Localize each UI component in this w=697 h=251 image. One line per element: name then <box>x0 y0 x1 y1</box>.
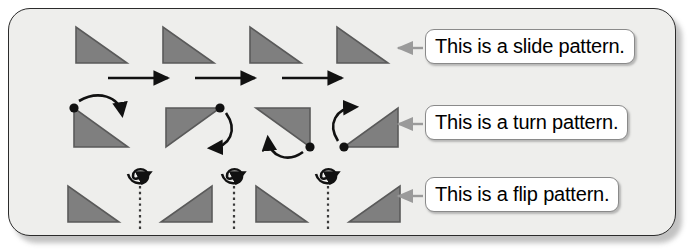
label-slide-pattern: This is a slide pattern. <box>425 29 635 64</box>
turn-triangle-3 <box>256 108 315 158</box>
flip-loop-arrow-1 <box>128 169 149 183</box>
slide-triangle-1 <box>76 27 127 63</box>
flip-triangle-1 <box>68 186 119 222</box>
diagram-stage: This is a slide pattern. This is a turn … <box>0 0 697 251</box>
flip-loop-arrow-3 <box>316 169 337 183</box>
turn-triangle-4 <box>333 107 398 152</box>
turn-curve-2 <box>211 113 232 148</box>
turn-curve-1 <box>79 95 122 114</box>
label-turn-pattern: This is a turn pattern. <box>425 105 628 140</box>
slide-triangle-3 <box>250 27 301 63</box>
turn-triangle-1 <box>69 95 128 147</box>
flip-loop-arrow-2 <box>222 169 243 183</box>
slide-triangle-4 <box>337 27 388 63</box>
turn-pivot-dot-3 <box>305 142 314 151</box>
row-slide <box>76 27 388 78</box>
slide-triangle-2 <box>163 27 214 63</box>
flip-triangle-4 <box>349 186 400 222</box>
turn-pivot-dot-2 <box>215 103 224 112</box>
turn-triangle-2 <box>166 103 232 148</box>
row-turn <box>69 95 398 157</box>
turn-pivot-dot-1 <box>69 103 78 112</box>
label-flip-pattern: This is a flip pattern. <box>425 177 619 212</box>
row-flip <box>68 169 400 230</box>
turn-curve-3 <box>268 139 303 158</box>
turn-curve-4 <box>333 107 355 141</box>
flip-triangle-3 <box>256 186 307 222</box>
turn-pivot-dot-4 <box>339 142 348 151</box>
flip-triangle-2 <box>161 186 212 222</box>
